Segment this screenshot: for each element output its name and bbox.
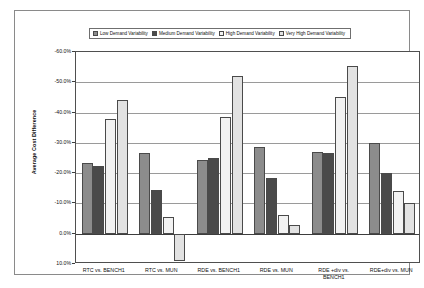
- bar-group: [76, 52, 134, 262]
- y-tick-label: 0.0%: [29, 230, 71, 236]
- bar: [220, 117, 231, 234]
- bar-group: [249, 52, 307, 262]
- legend-swatch-high-icon: [219, 31, 224, 36]
- bars-layer: [76, 52, 419, 262]
- bar: [105, 119, 116, 233]
- bar: [312, 152, 323, 234]
- y-tick-mark: [72, 263, 75, 264]
- legend-label-low: Low Demand Variability: [100, 31, 148, 37]
- legend-swatch-low-icon: [93, 31, 98, 36]
- bar: [232, 76, 243, 233]
- bar: [93, 166, 104, 234]
- bar: [381, 173, 392, 234]
- bar: [254, 147, 265, 233]
- bar: [266, 178, 277, 234]
- legend-item-very-high: Very High Demand Variability: [279, 31, 345, 37]
- bar: [278, 215, 289, 234]
- y-tick-label: -60.0%: [29, 48, 71, 54]
- y-tick-label: -50.0%: [29, 78, 71, 84]
- y-tick-label: -40.0%: [29, 109, 71, 115]
- legend-swatch-medium-icon: [152, 31, 157, 36]
- legend-label-medium: Medium Demand Variability: [159, 31, 215, 37]
- chart-legend: Low Demand Variability Medium Demand Var…: [89, 28, 351, 39]
- chart-frame: Low Demand Variability Medium Demand Var…: [14, 10, 410, 275]
- x-category-label: RDE +div vs.BENCH1: [305, 267, 363, 281]
- x-category-label: RTC vs. MUN: [133, 267, 191, 274]
- bar: [197, 160, 208, 234]
- y-tick-label: -30.0%: [29, 139, 71, 145]
- bar: [347, 66, 358, 234]
- legend-item-high: High Demand Variability: [219, 31, 275, 37]
- bar: [117, 100, 128, 233]
- legend-label-high: High Demand Variability: [226, 31, 275, 37]
- x-category-label: RDE+div vs. MUN: [363, 267, 421, 274]
- bar: [174, 234, 185, 261]
- bar: [369, 143, 380, 234]
- bar: [393, 191, 404, 233]
- bar: [82, 163, 93, 234]
- legend-swatch-very-high-icon: [279, 31, 284, 36]
- bar: [139, 153, 150, 233]
- legend-item-low: Low Demand Variability: [93, 31, 148, 37]
- bar: [404, 203, 415, 233]
- bar-group: [134, 52, 192, 262]
- y-tick-label: 10.0%: [29, 260, 71, 266]
- bar-group: [364, 52, 422, 262]
- x-category-label: RTC vs. BENCH1: [75, 267, 133, 274]
- bar: [335, 97, 346, 233]
- bar: [208, 158, 219, 234]
- x-category-label: RDE vs. MUN: [248, 267, 306, 274]
- y-tick-label: -20.0%: [29, 169, 71, 175]
- bar: [323, 153, 334, 233]
- bar-group: [306, 52, 364, 262]
- y-tick-label: -10.0%: [29, 199, 71, 205]
- bar: [289, 225, 300, 234]
- chart-figure: Low Demand Variability Medium Demand Var…: [0, 0, 424, 288]
- bar: [151, 190, 162, 234]
- legend-label-very-high: Very High Demand Variability: [286, 31, 345, 37]
- bar: [163, 217, 174, 234]
- bar-group: [191, 52, 249, 262]
- plot-area: [75, 51, 420, 263]
- x-category-label: RDE vs. BENCH1: [190, 267, 248, 274]
- legend-item-medium: Medium Demand Variability: [152, 31, 215, 37]
